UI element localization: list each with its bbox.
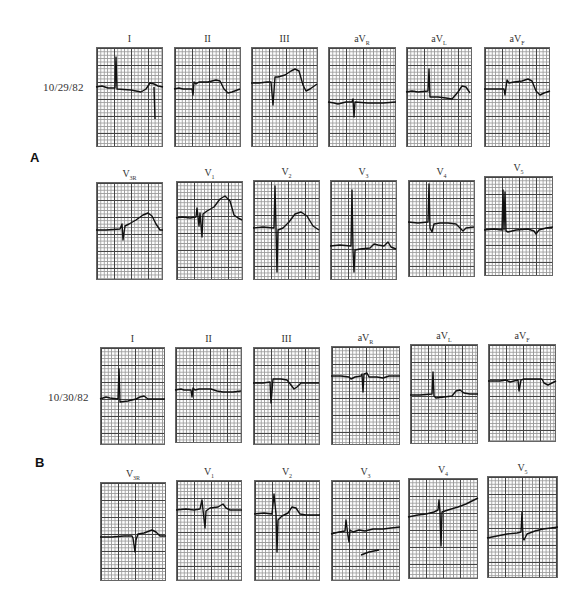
ecg-trace [96,182,163,280]
ecg-strip-b-lead-v3r: V3R [100,482,166,581]
lead-label: V1 [176,466,242,479]
date-label-b: 10/30/82 [48,391,89,403]
ecg-strip-a-lead-ii: II [174,47,241,147]
ecg-strip-a-lead-v2: V2 [253,180,320,280]
lead-label: V2 [253,166,320,179]
lead-label: aVL [410,330,478,343]
panel-label-b: B [35,455,44,470]
ecg-strip-b-lead-v1: V1 [176,480,242,581]
ecg-strip-b-lead-v2: V2 [254,480,320,581]
lead-label: III [251,33,318,46]
lead-label: V3 [331,466,400,479]
ecg-trace [96,47,163,147]
ecg-strip-a-lead-avf: aVF [484,47,550,147]
ecg-trace [176,181,243,280]
ecg-strip-b-lead-i: I [100,347,165,445]
lead-label: I [100,333,165,346]
ecg-trace [253,347,320,445]
ecg-trace [410,344,478,444]
ecg-trace [175,347,242,443]
ecg-trace [488,344,556,442]
lead-label: aVF [488,330,556,343]
ecg-trace [174,47,241,147]
lead-label: I [96,33,163,46]
ecg-strip-b-lead-v4: V4 [408,478,478,579]
lead-label: aVL [406,33,472,46]
lead-label: aVR [331,332,400,345]
ecg-strip-a-lead-avl: aVL [406,47,472,147]
lead-label: V5 [487,462,558,475]
ecg-trace [330,180,397,280]
lead-label: V3R [96,168,163,181]
panel-label-a: A [30,150,39,165]
ecg-strip-b-lead-ii: II [175,347,242,443]
lead-label: V5 [484,162,553,175]
lead-label: III [253,333,320,346]
ecg-strip-b-lead-avf: aVF [488,344,556,442]
ecg-trace [406,47,472,147]
ecg-trace [328,47,396,147]
ecg-strip-a-lead-iii: III [251,47,318,147]
ecg-strip-b-lead-avl: aVL [410,344,478,444]
ecg-strip-b-lead-avr: aVR [331,346,400,445]
lead-label: aVF [484,33,550,46]
lead-label: V3R [100,468,166,481]
lead-label: II [174,33,241,46]
ecg-trace [484,47,550,147]
ecg-trace [100,347,165,445]
ecg-strip-a-lead-v5: V5 [484,176,553,276]
ecg-trace [487,476,558,578]
lead-label: V2 [254,466,320,479]
ecg-strip-b-lead-v5: V5 [487,476,558,578]
ecg-trace [254,480,320,581]
ecg-trace [176,480,242,581]
ecg-strip-b-lead-v3: V3 [331,480,400,581]
lead-label: aVR [328,33,396,46]
lead-label: II [175,333,242,346]
ecg-trace [100,482,166,581]
ecg-strip-b-lead-iii: III [253,347,320,445]
lead-label: V3 [330,166,397,179]
ecg-trace [408,180,475,277]
ecg-strip-a-lead-v3: V3 [330,180,397,280]
ecg-strip-a-lead-v4: V4 [408,180,475,277]
ecg-strip-a-lead-avr: aVR [328,47,396,147]
ecg-trace [408,478,478,579]
ecg-trace [484,176,553,276]
ecg-strip-a-lead-v1: V1 [176,181,243,280]
ecg-trace [331,346,400,445]
lead-label: V1 [176,167,243,180]
lead-label: V4 [408,464,478,477]
date-label-a: 10/29/82 [43,81,84,93]
ecg-strip-a-lead-i: I [96,47,163,147]
ecg-trace [251,47,318,147]
ecg-trace [331,480,400,581]
ecg-strip-a-lead-v3r: V3R [96,182,163,280]
lead-label: V4 [408,166,475,179]
ecg-trace [253,180,320,280]
